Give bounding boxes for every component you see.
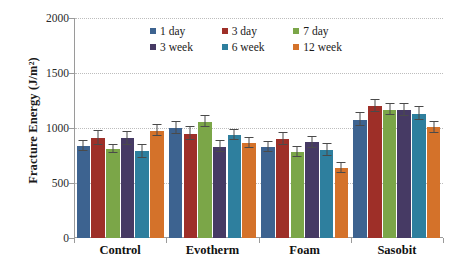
bar-slot — [135, 18, 149, 238]
x-axis-label-foam: Foam — [259, 243, 351, 258]
error-bar-cap-bottom — [307, 147, 316, 148]
error-bar-cap-top — [429, 121, 438, 122]
error-bar-cap-bottom — [186, 139, 195, 140]
error-bar-cap-bottom — [215, 151, 224, 152]
legend-label: 1 day — [160, 25, 185, 37]
error-bar-cap-bottom — [230, 139, 239, 140]
bar[interactable] — [228, 135, 242, 238]
x-axis-label-evotherm: Evotherm — [166, 243, 258, 258]
error-bar-cap-top — [201, 115, 210, 116]
bar[interactable] — [121, 138, 135, 238]
bar[interactable] — [397, 110, 411, 238]
x-axis-label-control: Control — [74, 243, 166, 258]
legend-item[interactable]: 3 week — [150, 41, 222, 53]
bar[interactable] — [91, 138, 105, 238]
legend-label: 3 day — [232, 25, 257, 37]
error-bar-cap-top — [94, 130, 103, 131]
legend-item[interactable]: 6 week — [222, 41, 294, 53]
legend-swatch-icon — [293, 44, 299, 50]
legend-swatch-icon — [222, 44, 228, 50]
error-bar-cap-bottom — [123, 144, 132, 145]
error-bar-cap-bottom — [337, 172, 346, 173]
bar[interactable] — [242, 143, 256, 238]
error-bar-cap-top — [356, 112, 365, 113]
bar[interactable] — [213, 147, 227, 238]
bar[interactable] — [320, 150, 334, 238]
bar[interactable] — [305, 142, 319, 238]
bar[interactable] — [77, 146, 91, 238]
bar[interactable] — [335, 168, 349, 238]
legend-item[interactable]: 7 day — [293, 25, 365, 37]
error-bar-cap-bottom — [263, 151, 272, 152]
bar[interactable] — [198, 122, 212, 238]
error-bar-cap-bottom — [322, 155, 331, 156]
bar-slot — [106, 18, 120, 238]
bar[interactable] — [276, 139, 290, 238]
bar[interactable] — [368, 106, 382, 238]
y-axis-tick-label: 1500 — [9, 67, 69, 79]
bar[interactable] — [184, 134, 198, 239]
bar-slot — [397, 18, 411, 238]
error-bar-cap-bottom — [278, 144, 287, 145]
error-bar-cap-bottom — [79, 150, 88, 151]
error-bar-cap-top — [370, 99, 379, 100]
y-axis-tick-label: 500 — [9, 177, 69, 189]
error-bar-cap-bottom — [171, 133, 180, 134]
error-bar-cap-top — [400, 103, 409, 104]
x-axis-tick-mark — [351, 238, 352, 243]
error-bar-cap-bottom — [429, 132, 438, 133]
legend-swatch-icon — [293, 28, 299, 34]
error-bar-cap-bottom — [108, 152, 117, 153]
legend-swatch-icon — [150, 44, 156, 50]
error-bar-cap-top — [263, 141, 272, 142]
legend-swatch-icon — [150, 28, 156, 34]
bar[interactable] — [150, 131, 164, 238]
error-bar-cap-top — [307, 136, 316, 137]
legend-item[interactable]: 12 week — [293, 41, 365, 53]
error-bar-cap-top — [278, 132, 287, 133]
x-axis-label-sasobit: Sasobit — [351, 243, 443, 258]
bar-slot — [368, 18, 382, 238]
error-bar-cap-bottom — [293, 156, 302, 157]
error-bar-cap-top — [79, 140, 88, 141]
legend-item[interactable]: 3 day — [222, 25, 294, 37]
x-axis-tick-mark — [443, 238, 444, 243]
bar[interactable] — [412, 114, 426, 238]
bar[interactable] — [169, 128, 183, 238]
error-bar-cap-bottom — [152, 135, 161, 136]
bar-slot — [412, 18, 426, 238]
bar[interactable] — [106, 149, 120, 238]
bar[interactable] — [261, 147, 275, 238]
y-axis-tick-label: 0 — [9, 232, 69, 244]
error-bar-cap-top — [138, 144, 147, 145]
legend-label: 12 week — [303, 41, 342, 53]
error-bar-cap-bottom — [138, 157, 147, 158]
legend-swatch-icon — [222, 28, 228, 34]
error-bar-cap-top — [152, 124, 161, 125]
bar[interactable] — [353, 120, 367, 238]
error-bar-cap-bottom — [400, 115, 409, 116]
bar[interactable] — [427, 127, 441, 238]
bar[interactable] — [291, 152, 305, 238]
error-bar-cap-top — [337, 162, 346, 163]
bar-slot — [383, 18, 397, 238]
bar-slot — [77, 18, 91, 238]
bar-slot — [91, 18, 105, 238]
bar[interactable] — [383, 110, 397, 238]
error-bar-cap-bottom — [245, 147, 254, 148]
x-axis-tick-mark — [74, 238, 75, 243]
error-bar-cap-top — [245, 137, 254, 138]
error-bar-cap-top — [322, 143, 331, 144]
bar[interactable] — [135, 151, 149, 238]
y-axis-title: Fracture Energy (J/m²) — [26, 21, 41, 221]
error-bar-cap-top — [123, 131, 132, 132]
legend-item[interactable]: 1 day — [150, 25, 222, 37]
error-bar-cap-bottom — [201, 126, 210, 127]
legend-label: 6 week — [232, 41, 265, 53]
error-bar-cap-top — [385, 103, 394, 104]
x-axis-tick-mark — [259, 238, 260, 243]
error-bar-cap-bottom — [356, 125, 365, 126]
legend-label: 7 day — [303, 25, 328, 37]
error-bar-cap-top — [230, 129, 239, 130]
error-bar-cap-top — [108, 144, 117, 145]
